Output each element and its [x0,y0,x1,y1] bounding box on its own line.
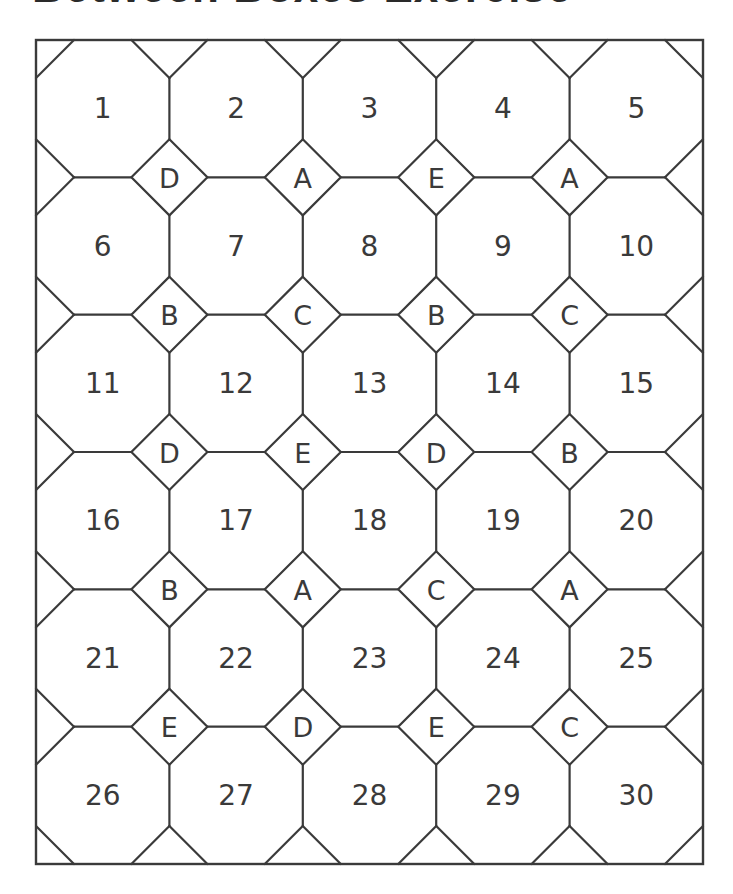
diamond-label: D [159,163,180,194]
edge-triangle [36,315,74,353]
corner-cut [665,40,703,78]
edge-triangle [436,826,474,864]
cell-number: 28 [352,779,388,812]
cell-number: 23 [352,642,388,675]
cell-number: 21 [85,642,121,675]
edge-triangle [665,589,703,627]
edge-triangle [665,177,703,215]
cell-number: 25 [618,642,654,675]
edge-triangle [532,826,570,864]
edge-triangle [303,40,341,78]
cell-number: 13 [352,367,388,400]
diamond-label: A [560,163,579,194]
cell-number: 30 [618,779,654,812]
cell-number: 6 [94,230,112,263]
cell-number: 20 [618,504,654,537]
cell-number: 4 [494,92,512,125]
edge-triangle [570,40,608,78]
edge-triangle [570,826,608,864]
diamond-label: A [560,575,579,606]
cell-number: 19 [485,504,521,537]
edge-triangle [36,277,74,315]
edge-triangle [36,139,74,177]
cell-number: 26 [85,779,121,812]
cell-number: 27 [218,779,254,812]
diamond-label: B [560,438,579,469]
edge-triangle [532,40,570,78]
cell-number: 2 [227,92,245,125]
cell-number: 1 [94,92,112,125]
edge-triangle [265,826,303,864]
edge-triangle [169,826,207,864]
edge-triangle [665,277,703,315]
edge-triangle [665,139,703,177]
edge-triangle [665,452,703,490]
diamond-label: B [160,300,179,331]
cell-number: 22 [218,642,254,675]
cell-number: 18 [352,504,388,537]
diamond-label: E [428,712,445,743]
edge-triangle [398,826,436,864]
cell-number: 15 [618,367,654,400]
diamond-label: C [560,712,579,743]
cell-number: 8 [361,230,379,263]
diamond-label: E [428,163,445,194]
diamond-label: C [560,300,579,331]
diamond-label: C [427,575,446,606]
diamond-label: D [292,712,313,743]
edge-triangle [36,452,74,490]
edge-triangle [36,177,74,215]
cell-number: 12 [218,367,254,400]
diamond-label: D [426,438,447,469]
edge-triangle [169,40,207,78]
corner-cut [36,826,74,864]
edge-triangle [398,40,436,78]
edge-triangle [131,40,169,78]
cell-number: 29 [485,779,521,812]
edge-triangle [303,826,341,864]
edge-triangle [665,414,703,452]
edge-triangle [665,689,703,727]
diamond-label: B [427,300,446,331]
edge-triangle [436,40,474,78]
diamond-label: C [293,300,312,331]
cell-number: 24 [485,642,521,675]
cell-number: 11 [85,367,121,400]
cell-number: 3 [361,92,379,125]
edge-triangle [36,589,74,627]
cell-number: 7 [227,230,245,263]
edge-triangle [665,551,703,589]
diamond-label: A [294,575,313,606]
cell-number: 5 [627,92,645,125]
cell-number: 14 [485,367,521,400]
diamond-label: A [294,163,313,194]
edge-triangle [265,40,303,78]
diamond-label: E [161,712,178,743]
cell-number: 17 [218,504,254,537]
diamond-label: D [159,438,180,469]
edge-triangle [36,727,74,765]
edge-triangle [665,727,703,765]
edge-triangle [665,315,703,353]
cell-number: 9 [494,230,512,263]
octagon-grid-diagram: 1234567891011121314151617181920212223242… [0,0,733,894]
grid-lines [36,40,703,864]
diamond-label: E [294,438,311,469]
corner-cut [665,826,703,864]
edge-triangle [36,551,74,589]
edge-triangle [36,414,74,452]
cell-number: 16 [85,504,121,537]
cell-number: 10 [618,230,654,263]
diamond-label: B [160,575,179,606]
edge-triangle [131,826,169,864]
corner-cut [36,40,74,78]
edge-triangle [36,689,74,727]
